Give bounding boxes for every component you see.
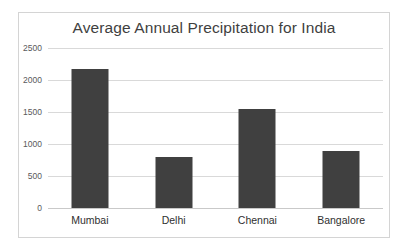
y-tick-label: 2500 <box>2 43 42 53</box>
y-tick-label: 500 <box>2 171 42 181</box>
bar[interactable] <box>239 109 276 208</box>
bar[interactable] <box>323 151 360 208</box>
y-tick-label: 0 <box>2 203 42 213</box>
y-axis: 05001000150020002500 <box>2 48 42 208</box>
bar-group: Bangalore <box>299 48 383 208</box>
y-tick-label: 1500 <box>2 107 42 117</box>
plot-area: MumbaiDelhiChennaiBangalore <box>48 48 383 208</box>
gridline <box>48 208 383 209</box>
bar-group: Mumbai <box>48 48 132 208</box>
y-tick-label: 1000 <box>2 139 42 149</box>
chart-title: Average Annual Precipitation for India <box>19 19 389 37</box>
x-axis-category-label: Chennai <box>216 214 300 226</box>
chart-container: Average Annual Precipitation for India 0… <box>18 12 390 238</box>
bar[interactable] <box>71 69 108 208</box>
bar-group: Chennai <box>216 48 300 208</box>
x-axis-category-label: Delhi <box>132 214 216 226</box>
bar-group: Delhi <box>132 48 216 208</box>
y-tick-label: 2000 <box>2 75 42 85</box>
bar-series: MumbaiDelhiChennaiBangalore <box>48 48 383 208</box>
bar[interactable] <box>155 157 192 208</box>
x-axis-category-label: Bangalore <box>299 214 383 226</box>
x-axis-category-label: Mumbai <box>48 214 132 226</box>
